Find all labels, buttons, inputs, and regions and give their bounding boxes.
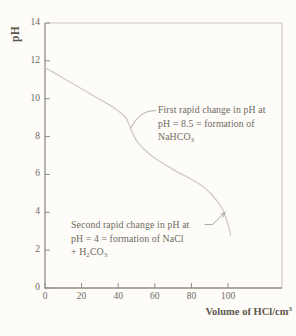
x-tick-label: 40 — [106, 291, 130, 301]
annotation-line: NaHCO3 — [158, 130, 290, 148]
y-tick-label: 14 — [18, 17, 40, 27]
annotation-line: + H2CO3 — [71, 245, 221, 263]
carbonate-titration-curve — [45, 67, 231, 235]
x-tick-label: 20 — [70, 291, 94, 301]
x-tick-label: 0 — [33, 291, 57, 301]
y-tick-label: 6 — [18, 168, 40, 178]
x-tick-label: 80 — [179, 291, 203, 301]
titration-figure: pH Volume of HCl/cm3 0246810121402040608… — [0, 0, 296, 336]
annotation-second-rapid-change: Second rapid change in pH at pH = 4 = fo… — [71, 218, 221, 263]
y-tick-label: 8 — [18, 131, 40, 141]
annotation-line: pH = 4 = formation of NaCl — [71, 232, 221, 246]
annotation-line: First rapid change in pH at — [158, 103, 290, 117]
y-tick-label: 10 — [18, 93, 40, 103]
annotation-line: pH = 8.5 = formation of — [158, 117, 290, 131]
y-tick-label: 4 — [18, 206, 40, 216]
x-tick-label: 60 — [143, 291, 167, 301]
annotation-line: Second rapid change in pH at — [71, 218, 221, 232]
x-tick-label: 100 — [216, 291, 240, 301]
y-tick-label: 2 — [18, 244, 40, 254]
y-tick-label: 12 — [18, 55, 40, 65]
plot-area — [0, 0, 296, 336]
annotation-first-rapid-change: First rapid change in pH at pH = 8.5 = f… — [158, 103, 290, 148]
annotation-leader-first — [131, 111, 156, 129]
x-axis-label: Volume of HCl/cm3 — [168, 305, 292, 317]
y-axis-label: pH — [9, 26, 21, 42]
